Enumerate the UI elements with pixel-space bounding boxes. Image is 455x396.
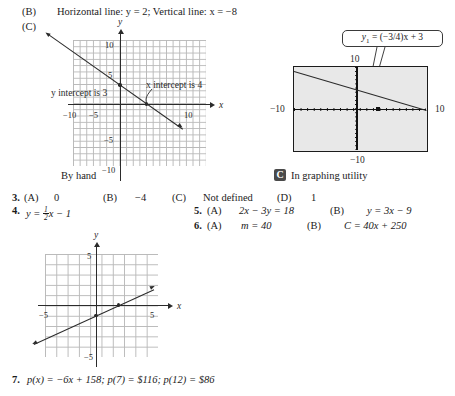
q4-y-axis-arrow-icon [94, 242, 100, 247]
q4-x-tick-5: 5 [150, 310, 154, 320]
q3-choice-d-value: 1 [311, 193, 316, 204]
q4-fraction-denominator: 2 [43, 214, 49, 222]
x-axis-label: x [219, 100, 223, 110]
q4-point-y-intercept [94, 314, 97, 317]
q4-y-axis-label: y [94, 230, 98, 240]
calc-graph-caption-row: C In graphing utility [274, 169, 367, 181]
q4-x-axis-label: x [177, 301, 181, 311]
q6-choice-b-value: C = 40x + 250 [344, 221, 407, 232]
q5-number: 5. [194, 206, 202, 217]
q4-x-axis-arrow-icon [168, 303, 173, 309]
q4-suffix: x − 1 [49, 208, 71, 219]
q4-fraction: 12 [43, 206, 49, 223]
y-axis [120, 34, 121, 181]
hand-drawn-graph: y x 10 5 −5 −10 −10 −5 10 y intercept is… [64, 30, 224, 185]
q4-point-x-intercept [117, 303, 120, 306]
q4-line-arrow-start-icon [31, 340, 37, 346]
q3-choice-b-tag: (B) [103, 193, 117, 204]
q4-y-tick-neg5: −5 [84, 352, 93, 362]
part-b-label: (B) [22, 7, 36, 18]
y-axis-arrow-icon [118, 29, 124, 34]
y-intercept-note: y intercept is 3 [51, 88, 107, 98]
graphing-utility-graph: y1 = (−3/4)x + 3 10 −10 10 −10 [255, 28, 455, 188]
calculator-screen [293, 66, 428, 152]
q3-choice-c-tag: (C) [172, 193, 186, 204]
calc-graph-caption: In graphing utility [291, 170, 367, 181]
y-tick-10: 10 [105, 40, 114, 50]
calc-ymax-label: 10 [350, 54, 360, 64]
q5-choice-b-value: y = 3x − 9 [367, 206, 412, 217]
q4-graph: y x 5 −5 −5 5 [40, 230, 220, 370]
q3-number: 3. [12, 193, 20, 204]
x-tick-neg5: −5 [89, 110, 98, 120]
calc-y-axis-ticks [353, 67, 360, 150]
q5-choice-b-tag: (B) [330, 206, 344, 217]
part-b-text: Horizontal line: y = 2; Vertical line: x… [57, 7, 237, 18]
q3-choice-a-tag: (A) [24, 193, 39, 204]
calc-ymin-label: −10 [350, 155, 365, 165]
y-intercept-point [118, 83, 121, 86]
q3-choice-c-value: Not defined [203, 193, 253, 204]
equation-callout-box: y1 = (−3/4)x + 3 [342, 30, 443, 47]
q5-choice-a-value: 2x − 3y = 18 [239, 206, 294, 217]
calc-xmax-label: 10 [435, 104, 445, 114]
q4-y-tick-5: 5 [87, 251, 91, 261]
q4-prefix: y = [26, 208, 43, 219]
q6-choice-b-tag: (B) [307, 221, 321, 232]
q7-value: p(x) = −6x + 158; p(7) = $116; p(12) = $… [27, 375, 214, 386]
equation-remainder: = (−3/4)x + 3 [370, 32, 424, 42]
calc-trace-cursor [376, 107, 380, 111]
q3-choice-b-value: −4 [135, 193, 146, 204]
x-tick-10: 10 [184, 110, 193, 120]
q4-value: y = 12x − 1 [26, 206, 71, 223]
x-intercept-leader-line [140, 88, 164, 108]
q5-choice-a-tag: (A) [207, 206, 222, 217]
part-c-label: (C) [22, 22, 36, 33]
q6-choice-a-value: m = 40 [241, 221, 271, 232]
chapter-c-badge: C [274, 169, 286, 181]
q3-choice-d-tag: (D) [277, 193, 292, 204]
equation-text: y1 = (−3/4)x + 3 [362, 32, 423, 45]
q4-x-axis [38, 305, 169, 306]
q4-y-axis [96, 247, 97, 367]
q3-choice-a-value: 0 [54, 193, 59, 204]
q4-number: 4. [12, 206, 20, 217]
hand-graph-caption: By hand [61, 171, 96, 182]
q4-x-tick-neg5: −5 [39, 310, 48, 320]
y-axis-label: y [118, 17, 122, 27]
answer-key-page: (B) Horizontal line: y = 2; Vertical lin… [0, 0, 455, 396]
q7-number: 7. [12, 375, 20, 386]
x-axis-arrow-icon [210, 102, 215, 108]
y-tick-neg5: −5 [104, 135, 113, 145]
y-tick-neg10: −10 [102, 165, 115, 175]
x-tick-neg10: −10 [63, 110, 76, 120]
calc-xmin-label: −10 [270, 104, 285, 114]
